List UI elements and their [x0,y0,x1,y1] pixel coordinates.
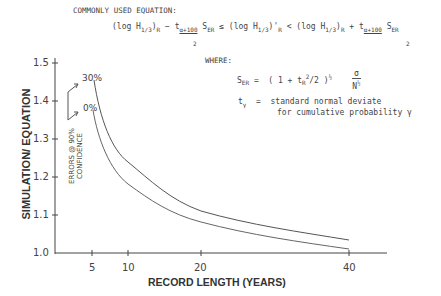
curve-30-percent [94,80,349,240]
chart-plot [0,0,441,296]
errors-arrows [68,84,78,120]
curve-0-percent [93,110,349,249]
